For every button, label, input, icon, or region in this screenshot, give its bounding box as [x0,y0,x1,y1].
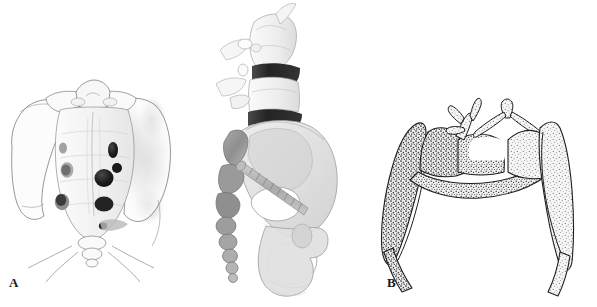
panel-c-left-inferior-strip [384,248,412,292]
panel-b-sacrum-coccyx [216,130,248,282]
panel-c-illustration [360,0,597,307]
panel-c-sacral-canal [469,137,506,160]
panel-c-right-iliac-wing [539,122,573,271]
panel-c-right-inferior-strip [548,252,570,296]
panel-b: B [190,0,360,307]
panel-b-illustration [190,0,360,307]
panel-a-label: A [9,276,18,289]
panel-a: A [0,0,190,307]
panel-a-illustration [0,0,190,307]
panel-b-ischiopubic-ring [258,224,328,296]
panel-b-l4-vertebra [220,3,297,70]
figure-root: A [0,0,597,307]
panel-c-left-iliac-wing [381,123,426,265]
panel-c: C [360,0,597,307]
panel-a-coccyx [78,236,106,267]
panel-a-left-ilium [12,100,62,220]
